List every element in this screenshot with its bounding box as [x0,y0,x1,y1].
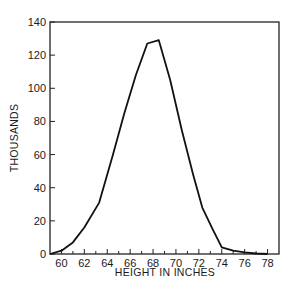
x-tick-label: 76 [239,257,251,269]
x-axis-title: HEIGHT IN INCHES [115,266,215,278]
y-tick-label: 40 [34,182,46,194]
line-chart: 020406080100120140 60626466687072747678 … [0,0,293,289]
x-tick-label: 62 [78,257,90,269]
y-tick-label: 120 [28,49,46,61]
y-tick-label: 60 [34,149,46,161]
y-axis-title: THOUSANDS [8,104,20,173]
y-tick-label: 20 [34,215,46,227]
x-tick-label: 74 [216,257,228,269]
y-tick-label: 100 [28,82,46,94]
x-tick-label: 64 [101,257,113,269]
x-tick-label: 60 [55,257,67,269]
y-tick-label: 0 [40,248,46,260]
x-tick-label: 78 [261,257,273,269]
data-line [50,40,268,254]
plot-border [50,22,279,254]
y-tick-label: 140 [28,16,46,28]
plot-frame [50,22,279,254]
y-axis: 020406080100120140 [28,16,55,260]
y-tick-label: 80 [34,115,46,127]
